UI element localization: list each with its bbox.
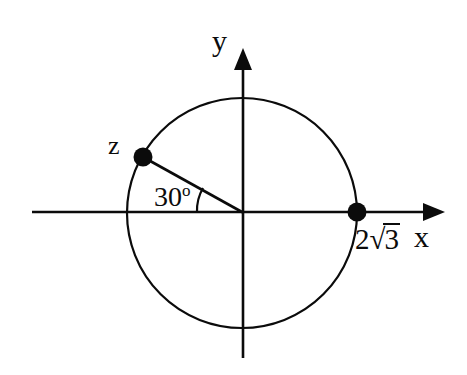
x-axis-arrowhead-icon [423, 203, 445, 221]
angle-label: 30o [154, 183, 191, 211]
point-marker-radius-intercept [348, 203, 367, 222]
square-root-group: √3 [370, 222, 400, 254]
figure-canvas [0, 0, 467, 375]
point-marker-z [134, 148, 153, 167]
y-axis-label: y [212, 26, 227, 56]
point-label-z: z [108, 133, 120, 159]
radius-value-label: 2√3 [355, 222, 400, 254]
argand-diagram-figure: y x z 30o 2√3 [0, 0, 467, 375]
angle-arc [197, 188, 203, 212]
radicand-value: 3 [383, 223, 400, 254]
x-axis-label: x [414, 222, 429, 252]
degree-symbol-icon: o [182, 181, 191, 200]
angle-value: 30 [154, 181, 182, 212]
radius-coefficient: 2 [355, 223, 370, 255]
y-axis-arrowhead-icon [234, 48, 252, 70]
